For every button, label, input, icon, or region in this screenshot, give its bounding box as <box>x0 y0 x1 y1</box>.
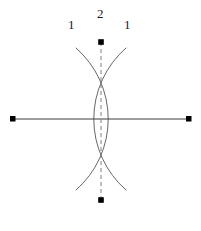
left-arc-label: 1 <box>68 18 75 31</box>
left-endpoint-dot <box>10 116 16 122</box>
top-intersection-dot <box>98 39 104 45</box>
construction-drawing <box>0 0 201 231</box>
right-arc-label: 1 <box>124 18 131 31</box>
bottom-intersection-dot <box>98 197 104 203</box>
geometric-construction-figure: 1 2 1 <box>0 0 201 231</box>
bisector-label: 2 <box>97 7 104 20</box>
right-endpoint-dot <box>186 116 192 122</box>
